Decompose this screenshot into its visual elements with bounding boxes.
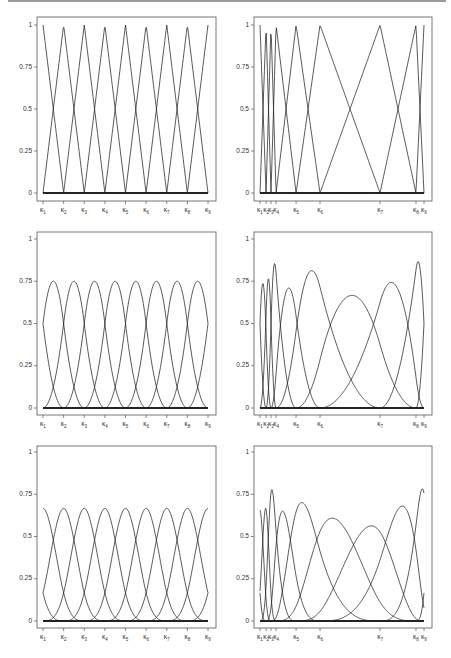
y-tick-label: 1 xyxy=(245,21,249,28)
knot-label: κ4 xyxy=(102,420,108,429)
panel-row2-left: 00.250.50.751κ1κ2κ3κ4κ5κ6κ7κ8κ9 xyxy=(19,232,216,429)
basis-function-curve xyxy=(260,34,424,193)
knot-label: κ7 xyxy=(164,420,170,429)
basis-function-curve xyxy=(43,281,208,408)
panel-row3-left: 00.250.50.751κ1κ2κ3κ4κ5κ6κ7κ8κ9 xyxy=(19,446,216,642)
knot-label: κ8 xyxy=(413,633,419,642)
basis-function-curve xyxy=(260,288,424,408)
basis-function-curve xyxy=(43,25,208,193)
knot-label: κ7 xyxy=(164,206,170,215)
basis-function-curve xyxy=(260,284,424,408)
y-tick-label: 0.5 xyxy=(23,105,32,112)
basis-function-curve xyxy=(43,28,208,193)
plot-frame xyxy=(254,17,432,201)
basis-function-curve xyxy=(43,281,208,408)
knot-label: κ5 xyxy=(293,206,299,215)
y-tick-label: 0.25 xyxy=(236,147,249,154)
basis-function-curve xyxy=(43,281,208,408)
basis-function-curve xyxy=(43,281,208,408)
y-tick-label: 0 xyxy=(245,189,249,196)
basis-function-curve xyxy=(260,490,424,621)
y-tick-label: 0.25 xyxy=(19,361,32,368)
y-tick-label: 0.5 xyxy=(240,105,249,112)
y-tick-label: 0.75 xyxy=(236,490,249,497)
basis-function-curve xyxy=(260,26,424,193)
basis-function-curve xyxy=(43,508,208,621)
knot-label: κ6 xyxy=(143,206,149,215)
knot-label: κ4 xyxy=(102,206,108,215)
plot-frame xyxy=(37,17,216,201)
y-tick-label: 0.25 xyxy=(236,574,249,581)
knot-label: κ5 xyxy=(123,633,129,642)
basis-function-curve xyxy=(43,324,208,409)
basis-function-curve xyxy=(260,25,424,193)
knot-label: κ8 xyxy=(184,420,190,429)
knot-label: κ1 xyxy=(40,633,46,642)
basis-function-curve xyxy=(43,28,208,193)
knot-label: κ5 xyxy=(123,206,129,215)
panel-row3-right: 00.250.50.751κ1κ2κ3κ4κ5κ6κ7κ8κ9 xyxy=(236,446,432,642)
basis-function-curve xyxy=(43,28,208,193)
y-tick-label: 0.25 xyxy=(236,361,249,368)
basis-function-curve xyxy=(260,28,424,193)
knot-label: κ9 xyxy=(421,420,427,429)
y-tick-label: 0.75 xyxy=(236,63,249,70)
basis-function-curve xyxy=(260,489,424,621)
knot-label: κ8 xyxy=(413,206,419,215)
basis-function-curve xyxy=(260,295,424,408)
knot-label: κ9 xyxy=(205,420,211,429)
basis-function-curve xyxy=(43,508,208,621)
basis-function-curve xyxy=(43,508,208,621)
basis-function-curve xyxy=(260,271,424,408)
knot-label: κ8 xyxy=(184,206,190,215)
basis-function-curve xyxy=(43,508,208,621)
knot-label: κ8 xyxy=(184,633,190,642)
knot-label: κ1 xyxy=(40,206,46,215)
knot-label: κ9 xyxy=(205,633,211,642)
knot-label: κ7 xyxy=(377,633,383,642)
panel-row1-left: 00.250.50.751κ1κ2κ3κ4κ5κ6κ7κ8κ9 xyxy=(19,17,216,215)
y-tick-label: 1 xyxy=(245,235,249,242)
knot-label: κ9 xyxy=(421,206,427,215)
basis-function-curve xyxy=(43,25,208,193)
basis-function-curve xyxy=(43,25,208,193)
knot-label: κ6 xyxy=(143,633,149,642)
knot-label: κ3 xyxy=(81,420,87,429)
y-tick-label: 0.75 xyxy=(19,490,32,497)
knot-label: κ6 xyxy=(317,420,323,429)
y-tick-label: 0.5 xyxy=(240,532,249,539)
basis-function-curve xyxy=(43,508,208,621)
y-tick-label: 0.5 xyxy=(23,319,32,326)
bspline-basis-figure: 00.250.50.751κ1κ2κ3κ4κ5κ6κ7κ8κ900.250.50… xyxy=(0,0,451,658)
knot-label: κ9 xyxy=(421,633,427,642)
basis-function-curve xyxy=(260,26,424,193)
y-tick-label: 0 xyxy=(245,404,249,411)
knot-label: κ4 xyxy=(273,633,279,642)
basis-function-curve xyxy=(43,508,208,621)
knot-label: κ4 xyxy=(102,633,108,642)
y-tick-label: 0 xyxy=(245,617,249,624)
basis-function-curve xyxy=(43,25,208,193)
y-tick-label: 0.25 xyxy=(19,574,32,581)
knot-label: κ1 xyxy=(40,420,46,429)
y-tick-label: 0 xyxy=(28,617,32,624)
knot-label: κ6 xyxy=(317,633,323,642)
basis-function-curve xyxy=(43,508,208,621)
basis-function-curve xyxy=(260,26,424,193)
y-tick-label: 0.75 xyxy=(19,277,32,284)
y-tick-label: 0.25 xyxy=(19,147,32,154)
basis-function-curve xyxy=(43,28,208,193)
knot-label: κ6 xyxy=(143,420,149,429)
basis-function-curve xyxy=(43,281,208,408)
basis-function-curve xyxy=(260,26,424,193)
y-tick-label: 0.5 xyxy=(23,532,32,539)
basis-function-curve xyxy=(43,281,208,408)
panel-row1-right: 00.250.50.751κ1κ2κ3κ4κ5κ6κ7κ8κ9 xyxy=(236,17,432,215)
knot-label: κ7 xyxy=(164,633,170,642)
basis-function-curve xyxy=(43,25,208,193)
knot-label: κ5 xyxy=(293,633,299,642)
knot-label: κ3 xyxy=(81,206,87,215)
basis-function-curve xyxy=(43,324,208,409)
knot-label: κ7 xyxy=(377,206,383,215)
knot-label: κ2 xyxy=(61,420,67,429)
